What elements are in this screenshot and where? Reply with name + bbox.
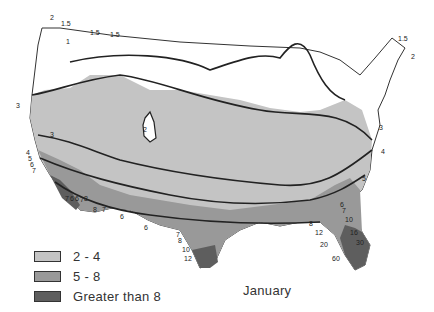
svg-text:3: 3 — [50, 131, 54, 138]
svg-text:6: 6 — [70, 195, 74, 202]
legend-swatch-medium — [34, 271, 61, 282]
legend-item-greater-than-8: Greater than 8 — [34, 286, 161, 306]
svg-text:30: 30 — [356, 239, 364, 246]
legend-swatch-light — [34, 251, 61, 262]
svg-text:10: 10 — [182, 246, 190, 253]
svg-text:12: 12 — [184, 255, 192, 262]
svg-text:7: 7 — [102, 206, 106, 213]
svg-text:8: 8 — [93, 206, 97, 213]
svg-text:8: 8 — [84, 195, 88, 202]
svg-text:8: 8 — [178, 237, 182, 244]
legend: 2 - 4 5 - 8 Greater than 8 — [34, 246, 161, 306]
month-label: January — [243, 283, 291, 298]
svg-text:3: 3 — [379, 124, 383, 131]
svg-text:2: 2 — [50, 14, 54, 21]
svg-text:5: 5 — [362, 175, 366, 182]
svg-text:1.5: 1.5 — [110, 31, 120, 38]
svg-text:1.5: 1.5 — [398, 35, 408, 42]
svg-text:3: 3 — [16, 102, 20, 109]
svg-text:6: 6 — [120, 213, 124, 220]
svg-text:7: 7 — [32, 167, 36, 174]
legend-swatch-dark — [34, 291, 61, 302]
svg-text:20: 20 — [320, 241, 328, 248]
legend-item-5-8: 5 - 8 — [34, 266, 161, 286]
svg-text:60: 60 — [332, 255, 340, 262]
legend-label: Greater than 8 — [73, 289, 161, 304]
svg-text:1.5: 1.5 — [61, 20, 71, 27]
svg-text:4: 4 — [381, 148, 385, 155]
svg-text:8: 8 — [309, 220, 313, 227]
svg-text:2: 2 — [143, 126, 147, 133]
svg-text:1.5: 1.5 — [90, 29, 100, 36]
legend-label: 2 - 4 — [73, 249, 101, 264]
svg-text:12: 12 — [315, 229, 323, 236]
svg-text:6: 6 — [144, 224, 148, 231]
svg-text:10: 10 — [345, 216, 353, 223]
svg-text:6: 6 — [75, 195, 79, 202]
svg-text:2: 2 — [411, 53, 415, 60]
svg-text:1: 1 — [66, 38, 70, 45]
legend-item-2-4: 2 - 4 — [34, 246, 161, 266]
svg-text:16: 16 — [350, 229, 358, 236]
svg-text:7: 7 — [65, 195, 69, 202]
svg-text:7: 7 — [342, 207, 346, 214]
legend-label: 5 - 8 — [73, 269, 101, 284]
